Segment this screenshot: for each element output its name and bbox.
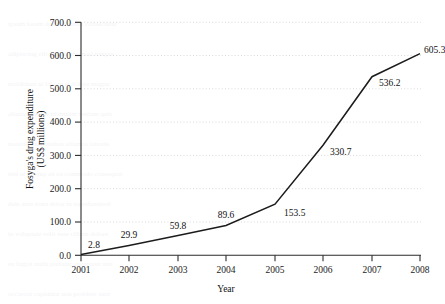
y-tick-label: 100.0 (50, 217, 72, 227)
data-point-label: 330.7 (330, 147, 352, 157)
x-axis-title: Year (217, 284, 235, 294)
y-axis-title: Fosyga's drug expenditure (25, 89, 35, 189)
svg-text:occaecat cupidatat non proiden: occaecat cupidatat non proident sunt (8, 290, 110, 298)
line-chart-figure: ipsum lorem dolor sit amet consectetur a… (0, 0, 445, 304)
x-tick-label: 2007 (363, 265, 382, 275)
y-tick-label: 400.0 (50, 117, 72, 127)
svg-text:eu fugiat nulla pariatur excep: eu fugiat nulla pariatur excepteur sint (8, 260, 113, 268)
y-tick-label: 600.0 (50, 51, 72, 61)
data-point-label: 2.8 (88, 240, 100, 250)
y-axis-subtitle: (US$ millions) (36, 111, 47, 168)
y-tick-label: 700.0 (50, 18, 72, 28)
chart-canvas: ipsum lorem dolor sit amet consectetur a… (0, 0, 445, 304)
x-tick-label: 2006 (314, 265, 333, 275)
svg-text:duis aute irure dolor in repre: duis aute irure dolor in reprehenderit (8, 200, 111, 208)
x-tick-label: 2003 (169, 265, 188, 275)
data-point-label: 89.6 (218, 210, 235, 220)
svg-text:nostrud exercitation ullamco l: nostrud exercitation ullamco laboris (8, 140, 109, 148)
x-tick-label: 2004 (217, 265, 236, 275)
x-tick-label: 2005 (266, 265, 285, 275)
data-point-label: 59.8 (170, 221, 187, 231)
x-tick-label: 2008 (411, 265, 430, 275)
y-tick-label: 0.0 (59, 251, 71, 261)
svg-text:in voluptate velit esse cillum: in voluptate velit esse cillum dolore (8, 230, 108, 238)
data-point-label: 153.5 (284, 208, 306, 218)
data-point-label: 605.3 (424, 45, 445, 55)
data-point-label: 29.9 (121, 230, 138, 240)
y-tick-label: 500.0 (50, 84, 72, 94)
x-tick-label: 2002 (120, 265, 139, 275)
y-tick-label: 300.0 (50, 151, 72, 161)
y-tick-label: 200.0 (50, 184, 72, 194)
data-point-label: 536.2 (379, 78, 401, 88)
x-tick-label: 2001 (72, 265, 91, 275)
